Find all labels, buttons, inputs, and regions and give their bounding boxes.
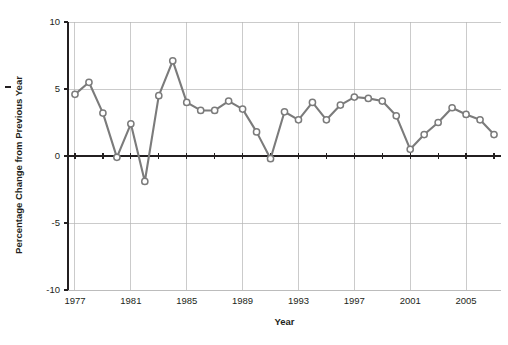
data-point-marker <box>281 109 287 115</box>
data-point-marker <box>212 107 218 113</box>
data-point-marker <box>477 117 483 123</box>
data-point-marker <box>128 121 134 127</box>
data-point-marker <box>365 95 371 101</box>
data-point-marker <box>435 119 441 125</box>
data-point-marker <box>407 146 413 152</box>
y-tick-label: 0 <box>55 150 60 161</box>
x-tick-label: 1981 <box>120 295 141 306</box>
y-tick-label: 5 <box>55 83 60 94</box>
data-point-marker <box>240 106 246 112</box>
x-tick-label: 1977 <box>64 295 85 306</box>
data-point-marker <box>253 129 259 135</box>
data-point-marker <box>379 98 385 104</box>
data-point-marker <box>156 93 162 99</box>
axis-tick-labels: 1050-5-101977198119851989199319972001200… <box>46 16 476 306</box>
y-axis-title: Percentage Change from Previous Year <box>13 76 24 254</box>
data-point-marker <box>184 99 190 105</box>
data-point-marker <box>421 131 427 137</box>
x-tick-label: 1997 <box>344 295 365 306</box>
data-point-marker <box>449 105 455 111</box>
data-point-marker <box>351 94 357 100</box>
data-point-marker <box>323 117 329 123</box>
y-tick-label: -5 <box>52 217 60 228</box>
data-point-markers <box>72 58 497 185</box>
x-axis-title: Year <box>274 316 294 327</box>
data-point-marker <box>309 99 315 105</box>
chart-canvas: 1050-5-101977198119851989199319972001200… <box>0 0 508 345</box>
series-layer <box>75 61 494 182</box>
axis-layer <box>64 22 501 290</box>
x-tick-label: 2005 <box>456 295 477 306</box>
data-point-marker <box>295 117 301 123</box>
data-point-marker <box>142 178 148 184</box>
data-point-marker <box>337 102 343 108</box>
data-point-marker <box>86 79 92 85</box>
data-point-marker <box>170 58 176 64</box>
data-point-marker <box>198 107 204 113</box>
x-tick-label: 1993 <box>288 295 309 306</box>
data-point-marker <box>114 154 120 160</box>
data-point-marker <box>393 113 399 119</box>
data-point-marker <box>267 156 273 162</box>
data-point-marker <box>491 131 497 137</box>
x-tick-label: 1985 <box>176 295 197 306</box>
data-point-marker <box>226 98 232 104</box>
series-line <box>75 61 494 182</box>
y-tick-label: 10 <box>49 16 60 27</box>
data-point-marker <box>463 111 469 117</box>
x-tick-label: 2001 <box>400 295 421 306</box>
data-point-marker <box>100 110 106 116</box>
line-chart: 1050-5-101977198119851989199319972001200… <box>0 0 508 345</box>
y-tick-label: -10 <box>46 284 60 295</box>
data-point-marker <box>72 91 78 97</box>
x-tick-label: 1989 <box>232 295 253 306</box>
